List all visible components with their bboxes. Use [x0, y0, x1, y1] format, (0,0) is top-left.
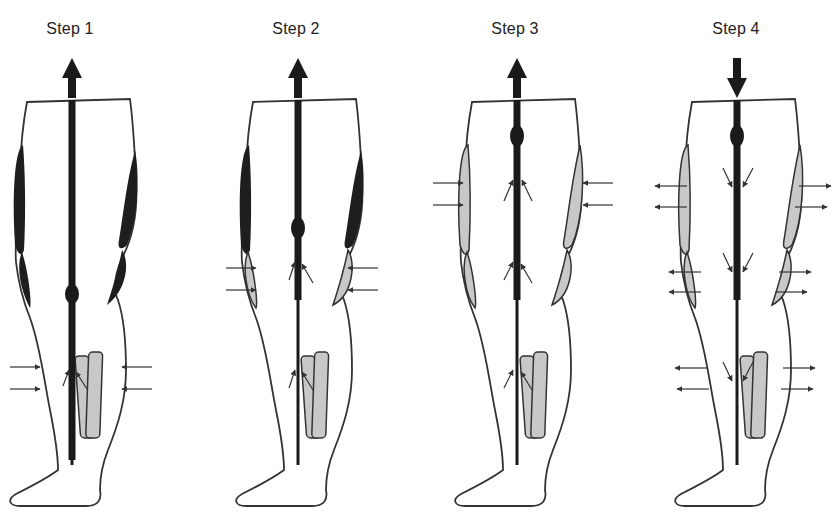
vein-bulge — [291, 217, 305, 239]
calf-cuff-right — [312, 352, 329, 438]
step-4-leg — [655, 58, 831, 506]
step-4-title: Step 4 — [712, 20, 759, 38]
flow-arrow-down-icon — [727, 58, 747, 98]
step-3-leg — [433, 58, 613, 506]
step-1-title: Step 1 — [46, 20, 93, 38]
step-2-title: Step 2 — [272, 20, 319, 38]
calf-cuff-right — [86, 352, 103, 438]
thigh-cuff-left — [14, 145, 25, 254]
compression-diagram — [0, 0, 836, 519]
thigh-cuff-left — [679, 145, 690, 254]
thigh-cuff-left — [240, 145, 251, 254]
flow-arrow-up-icon — [288, 58, 308, 98]
vein-bulge — [510, 125, 524, 147]
vein-bulge — [730, 125, 744, 147]
flow-arrow-up-icon — [507, 58, 527, 98]
step-2-leg — [226, 58, 378, 506]
thigh-cuff-left — [459, 145, 470, 254]
calf-cuff-right — [531, 352, 548, 438]
step-3-title: Step 3 — [491, 20, 538, 38]
step-1-leg — [10, 58, 152, 506]
flow-arrow-up-icon — [62, 58, 82, 98]
calf-cuff-right — [751, 352, 768, 438]
vein-bulge — [65, 284, 79, 304]
